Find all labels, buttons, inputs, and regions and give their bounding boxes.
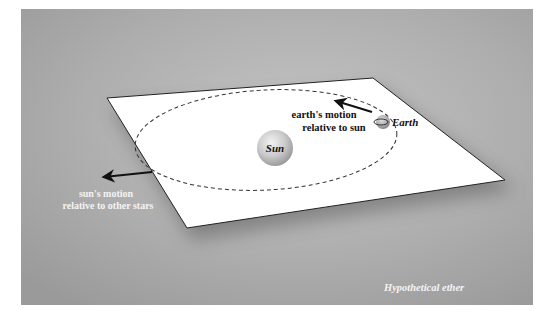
ether-diagram: Sun Earth earth's motion relative to sun…: [0, 0, 536, 318]
figure-caption: Hypothetical ether: [383, 282, 465, 293]
earth-label: Earth: [391, 116, 418, 128]
earth-motion-label-line1: earth's motion: [291, 109, 356, 120]
sun-motion-label-line2: relative to other stars: [63, 200, 154, 211]
sun-label: Sun: [266, 142, 284, 154]
earth-motion-label-line2: relative to sun: [302, 122, 366, 133]
sun-motion-label-line1: sun's motion: [79, 188, 134, 199]
